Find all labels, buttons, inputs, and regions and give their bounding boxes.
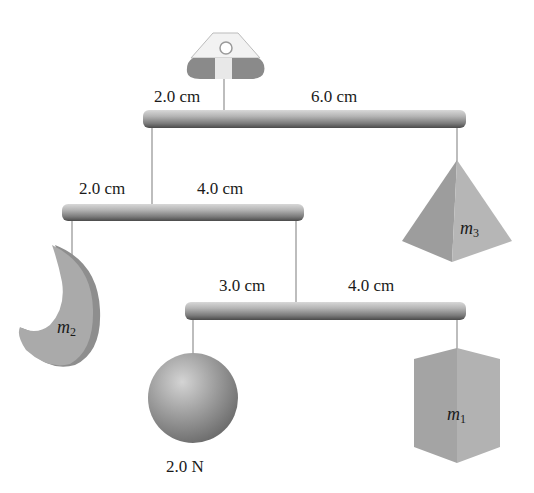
bottom-rod-right-distance: 4.0 cm — [348, 277, 394, 294]
m2-crescent — [19, 245, 100, 367]
bottom-rod — [185, 302, 466, 320]
sphere-weight-label: 2.0 N — [166, 458, 204, 475]
m1-label: m1 — [447, 405, 466, 425]
top-rod — [143, 110, 466, 128]
hanger-icon — [187, 33, 265, 79]
m2-label: m2 — [57, 318, 76, 338]
top-rod-left-distance: 2.0 cm — [154, 88, 200, 105]
middle-rod-left-distance: 2.0 cm — [79, 180, 125, 197]
m3-label: m3 — [460, 219, 479, 239]
sphere-weight — [148, 353, 238, 443]
top-rod-right-distance: 6.0 cm — [311, 88, 357, 105]
middle-rod — [62, 204, 304, 221]
m3-pyramid — [402, 160, 512, 262]
middle-rod-right-distance: 4.0 cm — [197, 180, 243, 197]
bottom-rod-left-distance: 3.0 cm — [219, 277, 265, 294]
